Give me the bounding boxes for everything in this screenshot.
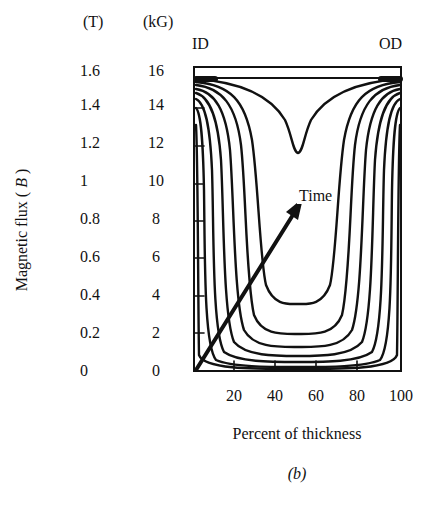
plot-area <box>0 0 442 505</box>
time-annotation: Time <box>297 188 334 204</box>
x-tick: 100 <box>389 387 413 405</box>
x-tick: 80 <box>349 387 365 405</box>
x-tick: 60 <box>308 387 324 405</box>
x-tick: 20 <box>226 387 242 405</box>
x-axis-label: Percent of thickness <box>233 425 362 443</box>
subfigure-caption: (b) <box>288 465 307 483</box>
x-tick: 40 <box>267 387 283 405</box>
